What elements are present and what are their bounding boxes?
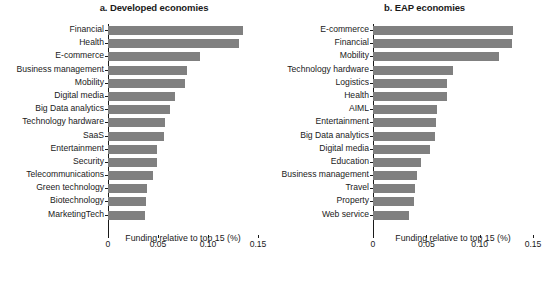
panel-a-title: a. Developed economies <box>0 2 272 13</box>
bar <box>373 132 435 141</box>
category-label: E-commerce <box>320 23 369 36</box>
bar-row: Mobility <box>108 77 258 90</box>
category-label: Security <box>73 155 104 168</box>
bar <box>373 171 417 180</box>
bar <box>373 145 430 154</box>
bar <box>108 79 185 88</box>
category-label: Web service <box>322 208 369 221</box>
bar-row: Technology hardware <box>373 64 533 77</box>
category-label: Technology hardware <box>287 63 369 76</box>
category-label: Property <box>337 194 369 207</box>
panel-b-title: b. EAP economies <box>272 2 547 13</box>
bar-row: Telecommunications <box>108 169 258 182</box>
panel-a-bar-rows: FinancialHealthE-commerceBusiness manage… <box>108 24 258 235</box>
bar <box>108 66 187 75</box>
bar-row: Logistics <box>373 77 533 90</box>
bar <box>373 211 409 220</box>
bar <box>108 105 170 114</box>
bar <box>373 105 437 114</box>
bar <box>373 118 436 127</box>
category-label: Education <box>331 155 369 168</box>
bar <box>108 171 153 180</box>
category-label: Business management <box>282 168 369 181</box>
category-label: Entertainment <box>315 115 369 128</box>
bar-row: Business management <box>108 64 258 77</box>
bar <box>373 184 415 193</box>
bar-row: Property <box>373 195 533 208</box>
bar-row: Mobility <box>373 50 533 63</box>
bar <box>108 184 147 193</box>
bar-row: Entertainment <box>373 116 533 129</box>
bar-row: E-commerce <box>373 24 533 37</box>
bar <box>373 79 447 88</box>
category-label: Logistics <box>336 76 369 89</box>
category-label: Telecommunications <box>26 168 104 181</box>
category-label: Biotechnology <box>50 194 104 207</box>
bar <box>108 92 175 101</box>
bar-row: Digital media <box>108 90 258 103</box>
category-label: AIML <box>349 102 369 115</box>
panel-b-plot-area: E-commerceFinancialMobilityTechnology ha… <box>373 24 533 235</box>
category-label: Mobility <box>340 49 369 62</box>
bar <box>373 197 414 206</box>
category-label: Entertainment <box>50 142 104 155</box>
category-label: Green technology <box>36 181 104 194</box>
bar-row: Financial <box>108 24 258 37</box>
bar-row: Big Data analytics <box>108 103 258 116</box>
bar-row: Biotechnology <box>108 195 258 208</box>
category-label: MarketingTech <box>48 208 104 221</box>
bar-row: Entertainment <box>108 143 258 156</box>
category-label: Big Data analytics <box>300 129 369 142</box>
panel-a-plot-area: FinancialHealthE-commerceBusiness manage… <box>108 24 258 235</box>
bar <box>108 39 239 48</box>
category-label: Big Data analytics <box>35 102 104 115</box>
bar <box>373 39 512 48</box>
x-axis-tick-mark <box>258 235 259 238</box>
bar-row: Travel <box>373 182 533 195</box>
category-label: Health <box>344 89 369 102</box>
bar <box>373 52 499 61</box>
category-label: Digital media <box>319 142 369 155</box>
category-label: Technology hardware <box>22 115 104 128</box>
category-label: Digital media <box>54 89 104 102</box>
bar <box>373 66 453 75</box>
figure: a. Developed economies FinancialHealthE-… <box>0 0 547 285</box>
bar <box>108 26 243 35</box>
bar-row: Digital media <box>373 143 533 156</box>
category-label: Mobility <box>75 76 104 89</box>
panel-b-bar-rows: E-commerceFinancialMobilityTechnology ha… <box>373 24 533 235</box>
bar-row: SaaS <box>108 130 258 143</box>
bar-row: Financial <box>373 37 533 50</box>
category-label: Business management <box>17 63 104 76</box>
bar-row: Health <box>373 90 533 103</box>
bar-row: Security <box>108 156 258 169</box>
category-label: SaaS <box>83 129 104 142</box>
bar <box>108 118 165 127</box>
category-label: Financial <box>70 23 104 36</box>
bar-row: Education <box>373 156 533 169</box>
bar <box>373 92 447 101</box>
category-label: E-commerce <box>55 49 104 62</box>
bar-row: Technology hardware <box>108 116 258 129</box>
panel-developed-economies: a. Developed economies FinancialHealthE-… <box>0 0 272 285</box>
bar-row: Big Data analytics <box>373 130 533 143</box>
bar <box>373 158 421 167</box>
bar-row: Business management <box>373 169 533 182</box>
category-label: Financial <box>335 36 369 49</box>
bar <box>373 26 513 35</box>
panel-b-x-axis-title-text: Funding relative to top 15 (%) <box>395 233 510 243</box>
bar-row: AIML <box>373 103 533 116</box>
bar-row: Web service <box>373 209 533 222</box>
bar <box>108 158 157 167</box>
bar-row: MarketingTech <box>108 209 258 222</box>
bar <box>108 197 146 206</box>
category-label: Travel <box>345 181 369 194</box>
bar <box>108 52 200 61</box>
panel-a-x-axis-title: Funding relative to top 15 (%) <box>108 233 258 243</box>
panel-eap-economies: b. EAP economies E-commerceFinancialMobi… <box>272 0 547 285</box>
panel-b-x-axis-title: Funding relative to top 15 (%) <box>373 233 533 243</box>
panel-a-x-axis-title-text: Funding relative to top 15 (%) <box>125 233 240 243</box>
bar-row: Green technology <box>108 182 258 195</box>
bar-row: Health <box>108 37 258 50</box>
x-axis-tick-mark <box>533 235 534 238</box>
